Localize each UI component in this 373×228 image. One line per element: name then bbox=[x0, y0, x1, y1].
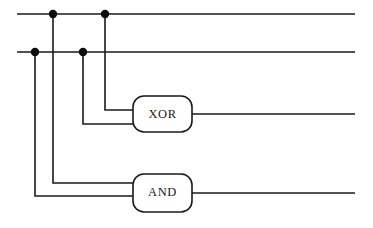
output-wire-group bbox=[192, 114, 355, 193]
junction-dot-group bbox=[31, 10, 109, 56]
junction-dot-a1 bbox=[49, 10, 57, 18]
junction-dot-a2 bbox=[101, 10, 109, 18]
junction-dot-b2 bbox=[79, 48, 87, 56]
wire-a-to-and-input bbox=[53, 14, 133, 183]
xor-gate-label: XOR bbox=[148, 107, 176, 121]
wire-b-to-xor-input bbox=[83, 52, 133, 124]
wire-a-to-xor-input bbox=[105, 14, 133, 110]
xor-gate[interactable]: XOR bbox=[133, 96, 192, 132]
circuit-svg-canvas: XOR AND bbox=[0, 0, 373, 228]
branch-wire-group bbox=[35, 14, 133, 196]
logic-circuit-diagram: XOR AND bbox=[0, 0, 373, 228]
and-gate-label: AND bbox=[148, 185, 177, 199]
and-gate[interactable]: AND bbox=[133, 174, 192, 212]
junction-dot-b1 bbox=[31, 48, 39, 56]
input-bus-group bbox=[17, 14, 355, 52]
